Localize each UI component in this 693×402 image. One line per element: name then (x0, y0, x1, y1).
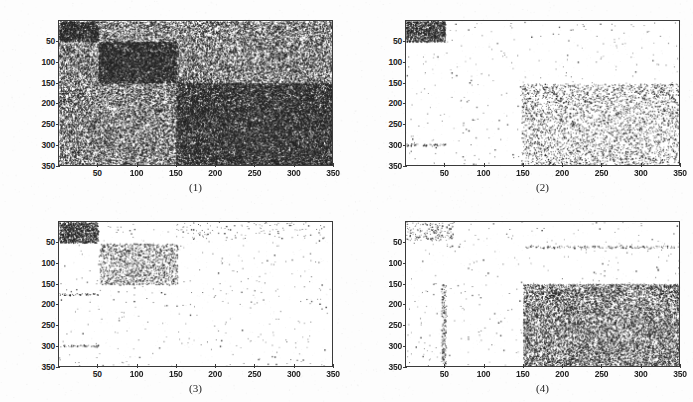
x-tick-mark (333, 163, 334, 167)
x-tick-mark (562, 163, 563, 167)
panel-2-y-axis: 50100150200250300350 (377, 20, 402, 166)
x-tick-label: 250 (595, 369, 609, 379)
panel-2-plot-area (405, 20, 680, 166)
x-tick-mark (444, 364, 445, 368)
y-tick-label: 50 (393, 237, 402, 247)
x-tick-label: 200 (555, 168, 569, 178)
x-tick-label: 50 (440, 369, 449, 379)
x-tick-label: 350 (326, 168, 340, 178)
y-tick-label: 100 (41, 57, 55, 67)
x-tick-label: 150 (516, 369, 530, 379)
x-tick-mark (97, 163, 98, 167)
x-tick-label: 200 (208, 369, 222, 379)
x-tick-label: 50 (93, 168, 102, 178)
y-tick-label: 200 (388, 98, 402, 108)
panel-3-scatter-canvas (59, 222, 332, 366)
x-tick-label: 100 (130, 369, 144, 379)
y-tick-label: 350 (388, 362, 402, 372)
x-tick-mark (254, 163, 255, 167)
x-tick-mark (215, 364, 216, 368)
y-tick-label: 100 (388, 57, 402, 67)
y-tick-label: 300 (388, 140, 402, 150)
x-tick-label: 250 (248, 168, 262, 178)
y-tick-label: 250 (388, 320, 402, 330)
y-tick-label: 50 (393, 36, 402, 46)
y-tick-label: 200 (388, 299, 402, 309)
panel-1-y-axis: 50100150200250300350 (30, 20, 55, 166)
panel-1: 50100150200250300350 5010015020025030035… (0, 0, 346, 201)
x-tick-label: 50 (93, 369, 102, 379)
x-tick-label: 250 (248, 369, 262, 379)
panel-4: 50100150200250300350 5010015020025030035… (347, 201, 693, 402)
x-tick-mark (176, 364, 177, 368)
x-tick-mark (254, 364, 255, 368)
panel-3-x-axis: 50100150200250300350 (58, 368, 333, 382)
y-tick-label: 200 (41, 98, 55, 108)
panel-4-caption: (4) (405, 382, 680, 394)
x-tick-mark (562, 364, 563, 368)
panel-4-plot-area (405, 221, 680, 367)
y-tick-label: 150 (41, 78, 55, 88)
panel-1-caption: (1) (58, 181, 333, 193)
panel-2-caption: (2) (405, 181, 680, 193)
x-tick-mark (641, 163, 642, 167)
y-tick-label: 350 (41, 362, 55, 372)
x-tick-label: 300 (634, 369, 648, 379)
y-tick-label: 250 (388, 119, 402, 129)
y-tick-label: 200 (41, 299, 55, 309)
x-tick-label: 150 (169, 168, 183, 178)
x-tick-mark (137, 364, 138, 368)
y-tick-label: 100 (388, 258, 402, 268)
y-tick-label: 250 (41, 320, 55, 330)
x-tick-label: 200 (208, 168, 222, 178)
x-tick-mark (484, 364, 485, 368)
y-tick-label: 300 (388, 341, 402, 351)
x-tick-label: 350 (673, 168, 687, 178)
x-tick-mark (523, 364, 524, 368)
y-tick-label: 150 (41, 279, 55, 289)
figure-container: 50100150200250300350 5010015020025030035… (0, 0, 693, 402)
panel-1-x-axis: 50100150200250300350 (58, 167, 333, 181)
x-tick-mark (294, 163, 295, 167)
x-tick-mark (215, 163, 216, 167)
x-tick-mark (333, 364, 334, 368)
x-tick-label: 350 (326, 369, 340, 379)
panel-2-scatter-canvas (406, 21, 679, 165)
x-tick-label: 350 (673, 369, 687, 379)
x-tick-label: 150 (169, 369, 183, 379)
x-tick-mark (680, 364, 681, 368)
x-tick-label: 200 (555, 369, 569, 379)
y-tick-label: 50 (46, 36, 55, 46)
x-tick-mark (601, 364, 602, 368)
panel-1-scatter-canvas (59, 21, 332, 165)
x-tick-mark (601, 163, 602, 167)
y-tick-label: 150 (388, 78, 402, 88)
panel-3-plot-area (58, 221, 333, 367)
x-tick-mark (137, 163, 138, 167)
panel-3-caption: (3) (58, 382, 333, 394)
x-tick-label: 100 (477, 168, 491, 178)
y-tick-label: 300 (41, 341, 55, 351)
x-tick-label: 300 (287, 168, 301, 178)
y-tick-label: 150 (388, 279, 402, 289)
panel-3-y-axis: 50100150200250300350 (30, 221, 55, 367)
x-tick-mark (641, 364, 642, 368)
x-tick-label: 300 (287, 369, 301, 379)
panel-2: 50100150200250300350 5010015020025030035… (347, 0, 693, 201)
panel-4-x-axis: 50100150200250300350 (405, 368, 680, 382)
x-tick-mark (680, 163, 681, 167)
panel-4-scatter-canvas (406, 222, 679, 366)
x-tick-label: 100 (477, 369, 491, 379)
y-tick-label: 100 (41, 258, 55, 268)
x-tick-label: 150 (516, 168, 530, 178)
panel-1-plot-area (58, 20, 333, 166)
panel-3: 50100150200250300350 5010015020025030035… (0, 201, 346, 402)
panel-4-y-axis: 50100150200250300350 (377, 221, 402, 367)
y-tick-label: 250 (41, 119, 55, 129)
x-tick-label: 50 (440, 168, 449, 178)
x-tick-mark (294, 364, 295, 368)
x-tick-mark (484, 163, 485, 167)
y-tick-label: 50 (46, 237, 55, 247)
x-tick-mark (176, 163, 177, 167)
x-tick-mark (444, 163, 445, 167)
